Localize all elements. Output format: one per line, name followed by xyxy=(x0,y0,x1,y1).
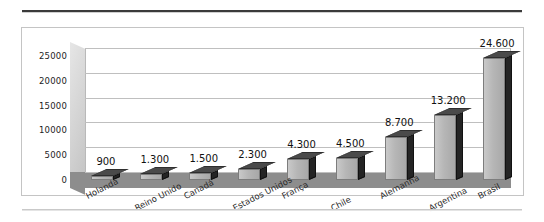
y-axis-tick-label: 20000 xyxy=(22,76,67,86)
bar-column xyxy=(483,58,505,180)
bar-side-face xyxy=(505,55,512,180)
y-axis-tick-label: 0 xyxy=(22,175,67,185)
bar-value-label: 13.200 xyxy=(418,95,478,106)
chart-plot-frame: 0500010000150002000025000 9001.3001.5002… xyxy=(21,27,524,196)
bar-front-face xyxy=(336,158,358,180)
bar-side-face xyxy=(358,155,365,180)
chart-plot-area: 0500010000150002000025000 9001.3001.5002… xyxy=(22,28,525,195)
y-axis-tick-label: 15000 xyxy=(22,101,67,111)
bar-column xyxy=(385,137,407,180)
bar-value-label: 4.500 xyxy=(320,138,380,149)
bar-value-label: 2.300 xyxy=(223,149,283,160)
bar-side-face xyxy=(309,156,316,180)
bar-column xyxy=(238,169,260,180)
y-axis-tick-label: 5000 xyxy=(22,150,67,160)
gridline xyxy=(85,73,511,74)
bar-value-label: 24.600 xyxy=(467,38,527,49)
y-axis-tick-label: 25000 xyxy=(22,51,67,61)
bar-front-face xyxy=(140,174,162,180)
bar-column xyxy=(336,158,358,180)
gridline xyxy=(85,48,511,49)
bar-front-face xyxy=(385,137,407,180)
bar-front-face xyxy=(434,115,456,180)
y-axis-tick-label: 10000 xyxy=(22,125,67,135)
bar-front-face xyxy=(238,169,260,180)
bar-front-face xyxy=(483,58,505,180)
bar-value-label: 8.700 xyxy=(369,117,429,128)
bar-column xyxy=(434,115,456,180)
chart-figure: 0500010000150002000025000 9001.3001.5002… xyxy=(0,0,544,222)
bottom-divider-rule-shadow xyxy=(22,210,522,211)
top-divider-rule-shadow xyxy=(22,12,522,13)
bar-side-face xyxy=(456,111,463,180)
bar-column xyxy=(140,174,162,180)
